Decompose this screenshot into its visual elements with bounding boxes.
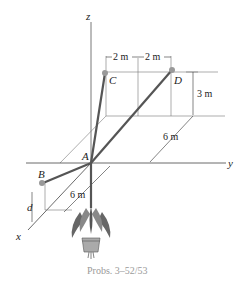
dim-depth-x: 6 m	[70, 189, 86, 200]
figure-caption: Probs. 3–52/53	[87, 265, 148, 276]
statics-diagram: z 2 m 2 m 3 m 6 m y x d 6 m C D A B	[0, 0, 247, 288]
cable-ab	[43, 163, 91, 183]
point-b-label: B	[38, 168, 45, 180]
dim-d: d	[27, 201, 33, 213]
z-axis-label: z	[85, 10, 91, 22]
anchor-b	[39, 180, 45, 186]
point-c-label: C	[109, 74, 117, 86]
anchor-c	[102, 70, 108, 76]
dim-height: 3 m	[197, 88, 213, 99]
x-axis-label: x	[15, 230, 21, 242]
y-axis-label: y	[227, 157, 233, 169]
potted-plant	[72, 206, 111, 259]
dim-cd-right: 2 m	[145, 51, 161, 62]
point-d-label: D	[173, 74, 182, 86]
anchor-d	[169, 67, 175, 73]
point-a-label: A	[81, 150, 89, 162]
dim-depth-y: 6 m	[163, 131, 179, 142]
dim-cd-left: 2 m	[113, 51, 129, 62]
